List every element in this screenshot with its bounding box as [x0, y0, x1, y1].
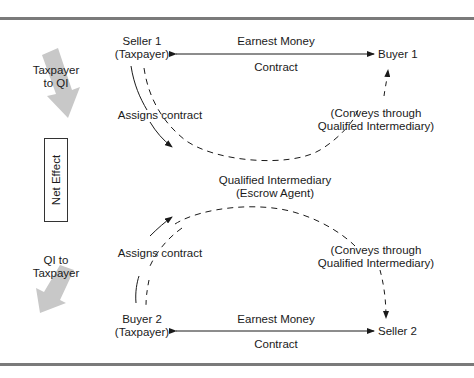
bottom-dashed-to-buyer2: [146, 280, 149, 305]
top-conveys-line1: (Conveys through: [316, 107, 436, 120]
bottom-assign-line-lower: [136, 276, 139, 303]
seller1-role: (Taxpayer): [112, 48, 172, 61]
taxpayer-to-qi-line2: to QI: [28, 77, 84, 90]
qi-to-taxpayer-line2: Taxpayer: [28, 267, 84, 280]
top-assigns-contract-label: Assigns contract: [116, 109, 204, 122]
buyer2-label: Buyer 2 (Taxpayer): [112, 313, 172, 339]
bottom-conveys-label: (Conveys through Qualified Intermediary): [316, 244, 436, 270]
buyer1-label: Buyer 1: [374, 48, 438, 61]
bottom-dashed-to-seller2: [380, 270, 386, 318]
qi-role: (Escrow Agent): [210, 187, 340, 200]
qi-to-taxpayer-line1: QI to: [28, 254, 84, 267]
taxpayer-to-qi-label: Taxpayer to QI: [28, 64, 84, 90]
seller1-name: Seller 1: [112, 35, 172, 48]
bottom-contract-label: Contract: [246, 338, 306, 351]
top-earnest-money-label: Earnest Money: [226, 35, 326, 48]
bottom-conveys-line2: Qualified Intermediary): [316, 257, 436, 270]
qi-to-taxpayer-label: QI to Taxpayer: [28, 254, 84, 280]
bottom-assign-arrow: [150, 217, 172, 236]
top-conveys-label: (Conveys through Qualified Intermediary): [316, 107, 436, 133]
top-contract-label: Contract: [246, 61, 306, 74]
top-conveys-line2: Qualified Intermediary): [316, 120, 436, 133]
qualified-intermediary-label: Qualified Intermediary (Escrow Agent): [210, 174, 340, 200]
top-assign-arrow: [150, 122, 172, 147]
top-dashed-to-buyer1: [384, 70, 388, 96]
bottom-earnest-money-label: Earnest Money: [226, 313, 326, 326]
bottom-conveys-line1: (Conveys through: [316, 244, 436, 257]
qi-name: Qualified Intermediary: [210, 174, 340, 187]
seller2-label: Seller 2: [374, 325, 438, 338]
seller1-label: Seller 1 (Taxpayer): [112, 35, 172, 61]
taxpayer-to-qi-line1: Taxpayer: [28, 64, 84, 77]
buyer2-role: (Taxpayer): [112, 326, 172, 339]
net-effect-label: Net Effect: [50, 155, 62, 205]
buyer2-name: Buyer 2: [112, 313, 172, 326]
net-effect-box: Net Effect: [44, 138, 68, 222]
bottom-dashed-upper: [175, 207, 355, 246]
bottom-assigns-contract-label: Assigns contract: [116, 247, 204, 260]
